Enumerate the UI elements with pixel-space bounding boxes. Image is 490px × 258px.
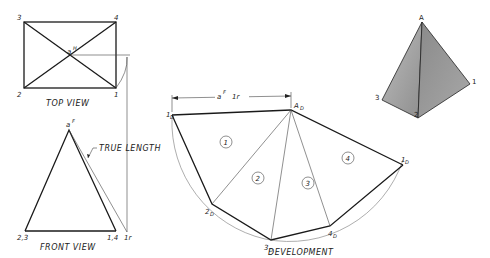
- pictorial-label-1: 1: [472, 78, 476, 86]
- development: a F 1r A D 1 D 2 D 3 D 4 D 1 D 1 2 3 4 D…: [166, 88, 409, 257]
- pictorial-label-3: 3: [375, 94, 379, 102]
- front-label-1r: 1r: [124, 234, 132, 242]
- svg-text:D: D: [405, 159, 409, 165]
- pyramid-development-drawing: 3 4 2 1 a H TOP VIEW a F TRUE LENGTH 2,3…: [0, 0, 490, 258]
- true-length-annotation: TRUE LENGTH: [99, 144, 161, 153]
- svg-text:D: D: [300, 105, 304, 111]
- top-label-4: 4: [114, 14, 118, 22]
- svg-text:D: D: [333, 233, 337, 239]
- front-view: a F TRUE LENGTH 2,3 1,4 1r FRONT VIEW: [17, 118, 161, 252]
- front-label-1-4: 1,4: [107, 234, 118, 242]
- pictorial-label-A: A: [419, 14, 424, 22]
- front-apex-sup: F: [72, 118, 75, 124]
- dimension-sup: F: [223, 89, 226, 95]
- pictorial-pyramid: A 1 2 3: [375, 14, 476, 119]
- dev-label-4: 4: [328, 230, 332, 238]
- face-3: 3: [306, 180, 310, 188]
- svg-text:D: D: [210, 211, 214, 217]
- dimension-a: a: [217, 93, 221, 101]
- face-1: 1: [224, 139, 228, 147]
- svg-text:D: D: [170, 114, 174, 120]
- dev-label-A: A: [293, 102, 299, 110]
- dimension-sub: 1r: [232, 93, 240, 101]
- top-label-1: 1: [114, 91, 118, 99]
- front-view-caption: FRONT VIEW: [40, 243, 96, 252]
- top-apex-sup: H: [73, 45, 77, 51]
- pictorial-label-2: 2: [414, 111, 418, 119]
- face-4: 4: [346, 155, 350, 163]
- development-caption: DEVELOPMENT: [268, 248, 334, 257]
- top-label-3: 3: [17, 14, 21, 22]
- front-label-2-3: 2,3: [17, 234, 28, 242]
- top-apex-label: a: [67, 48, 71, 56]
- front-apex-label: a: [66, 121, 70, 129]
- top-label-2: 2: [17, 91, 22, 99]
- top-view-caption: TOP VIEW: [46, 99, 90, 108]
- face-2: 2: [256, 175, 261, 183]
